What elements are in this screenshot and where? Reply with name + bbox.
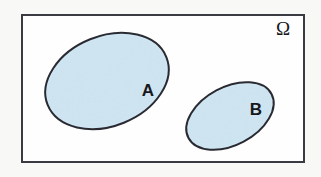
set-label-b: B [250, 100, 262, 119]
omega-label: Ω [276, 18, 290, 39]
set-label-a: A [142, 81, 154, 100]
venn-diagram-figure: A B Ω [0, 0, 321, 177]
diagram-canvas: A B Ω [0, 0, 321, 177]
